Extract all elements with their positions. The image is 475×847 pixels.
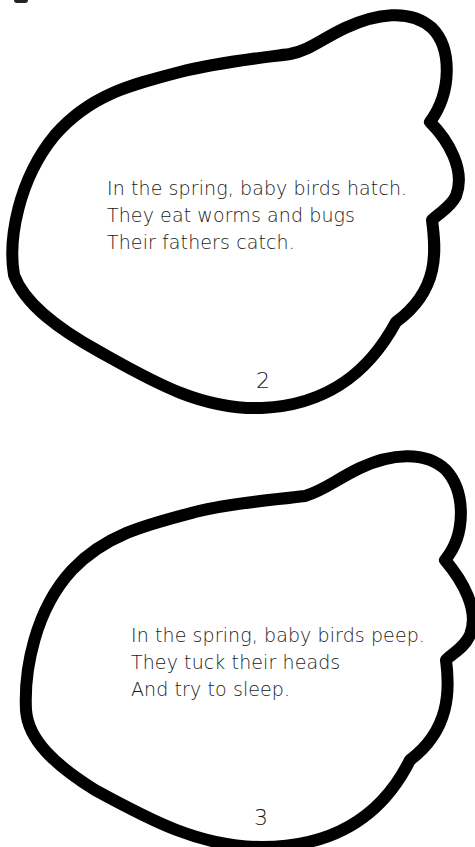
page-number: 2 [256,368,270,393]
verse-line: Their fathers catch. [107,229,407,256]
booklet-page-2: In the spring, baby birds hatch. They ea… [0,0,475,420]
verse-text: In the spring, baby birds peep. They tuc… [131,622,425,703]
verse-line: And try to sleep. [131,676,425,703]
verse-text: In the spring, baby birds hatch. They ea… [107,175,407,256]
verse-line: In the spring, baby birds hatch. [107,175,407,202]
booklet-page-3: In the spring, baby birds peep. They tuc… [0,420,475,847]
page-number: 3 [254,805,268,830]
verse-line: In the spring, baby birds peep. [131,622,425,649]
verse-line: They tuck their heads [131,649,425,676]
verse-line: They eat worms and bugs [107,202,407,229]
